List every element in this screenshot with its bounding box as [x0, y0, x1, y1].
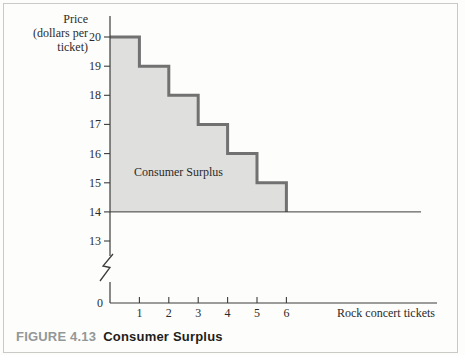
x-tick-label: 1 — [136, 306, 142, 320]
consumer-surplus-label: Consumer Surplus — [134, 165, 223, 179]
y-tick-label: 14 — [89, 205, 101, 219]
figure-caption: FIGURE 4.13Consumer Surplus — [16, 329, 223, 344]
figure-caption-title: Consumer Surplus — [103, 329, 223, 344]
y-axis-title: Price (dollars per ticket) — [6, 12, 88, 54]
y-tick-label: 16 — [89, 147, 101, 161]
x-axis-title: Rock concert tickets — [330, 306, 435, 320]
y-tick-label: 13 — [89, 234, 101, 248]
origin-label: 0 — [97, 296, 103, 310]
x-tick-label: 5 — [254, 306, 260, 320]
y-tick-label: 20 — [89, 30, 101, 44]
figure-caption-number: FIGURE 4.13 — [16, 329, 96, 344]
x-tick-label: 2 — [166, 306, 172, 320]
y-tick-label: 19 — [89, 59, 101, 73]
y-tick-label: 18 — [89, 88, 101, 102]
page: 13141516171819200123456 Price (dollars p… — [0, 0, 465, 355]
x-tick-label: 6 — [283, 306, 289, 320]
x-tick-label: 4 — [225, 306, 231, 320]
y-tick-label: 15 — [89, 176, 101, 190]
y-axis-break-mark — [100, 254, 113, 281]
x-tick-label: 3 — [195, 306, 201, 320]
y-tick-label: 17 — [89, 117, 101, 131]
